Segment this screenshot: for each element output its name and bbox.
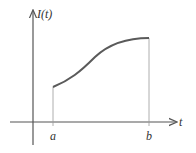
x-axis-label: t [179,115,183,129]
curve-I [53,38,149,87]
y-axis-label: I(t) [36,7,52,21]
graph: I(t) t a b [0,0,196,153]
point-b-label: b [146,129,152,143]
point-a-label: a [50,129,56,143]
